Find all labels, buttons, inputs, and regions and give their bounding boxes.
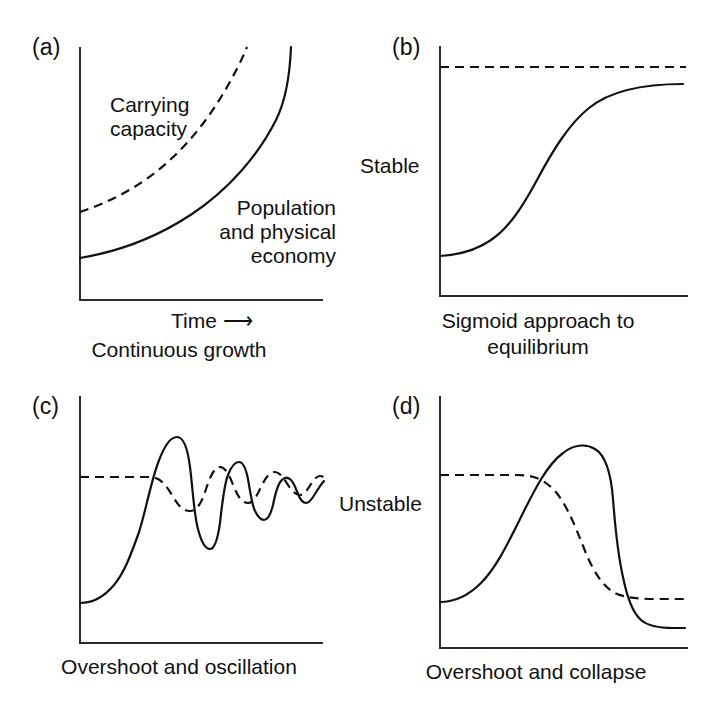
panel-c-axes (80, 397, 322, 643)
panel-d-carrying-capacity-curve (440, 475, 685, 599)
panel-b-caption: Sigmoid approach to equilibrium (363, 308, 713, 360)
panel-b-side-label: Stable (360, 155, 420, 176)
panel-a-x-axis-label-text: Time (171, 310, 217, 331)
panel-d-caption: Overshoot and collapse (357, 659, 715, 685)
panel-c-label: (c) (32, 395, 59, 418)
panel-b-label: (b) (392, 36, 420, 59)
panel-a-x-axis-label: Time ⟶ (171, 310, 253, 331)
figure-population-growth-modes: (a) Carrying capacity Population and phy… (0, 0, 715, 709)
panel-d-population-curve (440, 446, 685, 628)
right-arrow-icon: ⟶ (223, 310, 253, 331)
panel-d: (d) Unstable Overshoot and collapse (357, 355, 715, 709)
annotation-population-economy: Population and physical economy (219, 196, 336, 268)
panel-b-population-curve (440, 84, 683, 256)
panel-b-axes (440, 47, 687, 296)
panel-c: (c) Overshoot and oscillation (0, 355, 358, 709)
panel-d-label: (d) (392, 395, 420, 418)
panel-c-caption: Overshoot and oscillation (0, 654, 358, 680)
panel-a: (a) Carrying capacity Population and phy… (0, 0, 358, 355)
annotation-carrying-capacity: Carrying capacity (110, 93, 189, 141)
panel-d-axes (440, 397, 687, 648)
panel-b: (b) Stable Sigmoid approach to equilibri… (357, 0, 715, 355)
panel-c-carrying-capacity-curve (80, 467, 326, 511)
panel-c-population-curve (80, 437, 324, 603)
panel-d-side-label: Unstable (339, 493, 422, 514)
panel-a-label: (a) (32, 36, 60, 59)
